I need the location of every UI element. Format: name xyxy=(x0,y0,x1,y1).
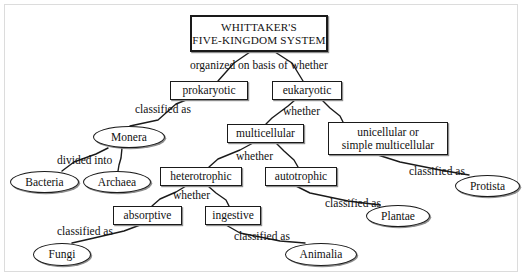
link-label-divided: divided into xyxy=(57,155,112,167)
edge-multicellular-to-autotrophic xyxy=(276,143,298,167)
node-label-fungi: Fungi xyxy=(46,248,79,261)
node-label-heterotrophic: heterotrophic xyxy=(167,170,234,183)
node-ingestive[interactable]: ingestive xyxy=(205,206,261,225)
node-unicellular[interactable]: unicellular orsimple multicellular xyxy=(328,122,448,155)
node-label-animalia: Animalia xyxy=(297,248,346,261)
node-eukaryotic[interactable]: eukaryotic xyxy=(272,81,342,100)
node-label-multicellular: multicellular xyxy=(233,127,298,140)
link-label-classified-plantae: classified as xyxy=(325,198,381,210)
link-label-classified-monera: classified as xyxy=(135,104,191,116)
link-label-classified-animalia: classified as xyxy=(234,231,290,243)
link-label-whether-het: whether xyxy=(173,190,210,202)
edge-eukaryotic-to-unicellular xyxy=(322,100,343,122)
node-label-protista: Protista xyxy=(467,180,508,193)
node-label-eukaryotic: eukaryotic xyxy=(280,84,335,97)
node-prokaryotic[interactable]: prokaryotic xyxy=(170,81,248,100)
link-label-classified-protista: classified as xyxy=(409,166,465,178)
node-label-absorptive: absorptive xyxy=(121,209,175,222)
node-label-bacteria: Bacteria xyxy=(22,176,66,189)
node-animalia[interactable]: Animalia xyxy=(285,243,357,266)
node-heterotrophic[interactable]: heterotrophic xyxy=(160,167,242,186)
node-label-root: WHITTAKER'SFIVE-KINGDOM SYSTEM xyxy=(189,21,328,46)
node-absorptive[interactable]: absorptive xyxy=(113,206,182,225)
node-label-monera: Monera xyxy=(108,131,150,144)
node-label-prokaryotic: prokaryotic xyxy=(179,84,238,97)
node-label-plantae: Plantae xyxy=(378,210,418,223)
node-label-archaea: Archaea xyxy=(95,176,139,189)
node-archaea[interactable]: Archaea xyxy=(83,171,151,193)
concept-map-canvas: WHITTAKER'SFIVE-KINGDOM SYSTEMprokaryoti… xyxy=(0,0,524,279)
link-label-organized: organized on basis of whether xyxy=(190,60,328,72)
node-protista[interactable]: Protista xyxy=(455,175,520,197)
node-bacteria[interactable]: Bacteria xyxy=(10,171,79,193)
link-label-classified-fungi: classified as xyxy=(57,226,113,238)
node-fungi[interactable]: Fungi xyxy=(33,243,91,266)
node-label-ingestive: ingestive xyxy=(209,209,257,222)
node-root[interactable]: WHITTAKER'SFIVE-KINGDOM SYSTEM xyxy=(190,15,328,52)
node-label-unicellular: unicellular orsimple multicellular xyxy=(339,126,437,152)
node-autotrophic[interactable]: autotrophic xyxy=(265,167,337,186)
node-label-autotrophic: autotrophic xyxy=(272,170,330,183)
edge-monera-to-archaea xyxy=(118,148,122,171)
node-monera[interactable]: Monera xyxy=(93,126,165,148)
link-label-whether-multi: whether xyxy=(236,151,273,163)
link-label-whether-euk: whether xyxy=(283,106,320,118)
edge-heterotrophic-to-ingestive xyxy=(208,186,229,206)
node-multicellular[interactable]: multicellular xyxy=(227,124,304,143)
